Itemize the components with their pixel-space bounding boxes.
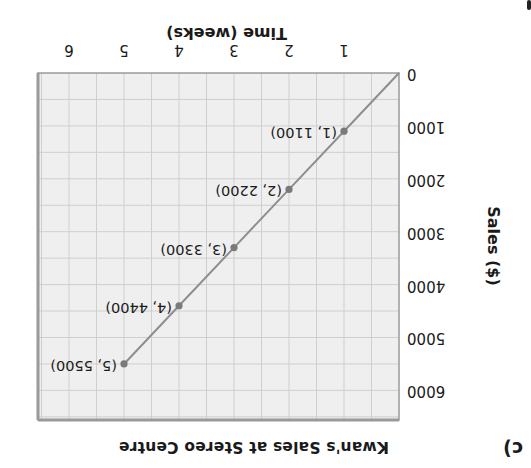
data-point[interactable]	[285, 186, 292, 193]
point-label: (5, 5500)	[50, 358, 117, 374]
data-point[interactable]	[120, 360, 127, 367]
edge-fragment	[527, 0, 531, 10]
figure-canvas: c) Kwan's Sales at Stereo Centre Sales (…	[0, 0, 531, 468]
point-label: (3, 3300)	[160, 242, 227, 258]
x-tick-label: 2	[279, 41, 299, 59]
y-tick-label: 0	[407, 65, 451, 83]
y-tick-label: 1000	[407, 118, 451, 136]
point-label: (2, 2200)	[215, 183, 282, 199]
data-point[interactable]	[230, 244, 237, 251]
y-tick-label: 3000	[407, 224, 451, 242]
x-tick-label: 1	[334, 41, 354, 59]
x-tick-label: 6	[59, 41, 79, 59]
point-label: (4, 4400)	[105, 300, 172, 316]
data-point[interactable]	[340, 128, 347, 135]
point-label: (1, 1100)	[270, 125, 337, 141]
y-tick-label: 2000	[407, 171, 451, 189]
x-tick-label: 3	[224, 41, 244, 59]
plot-area	[0, 0, 531, 468]
x-tick-label: 4	[169, 41, 189, 59]
x-tick-label: 5	[114, 41, 134, 59]
y-axis-label: Sales ($)	[484, 201, 503, 291]
data-point[interactable]	[175, 302, 182, 309]
y-tick-label: 5000	[407, 330, 451, 348]
y-tick-label: 6000	[407, 382, 451, 400]
y-tick-label: 4000	[407, 277, 451, 295]
